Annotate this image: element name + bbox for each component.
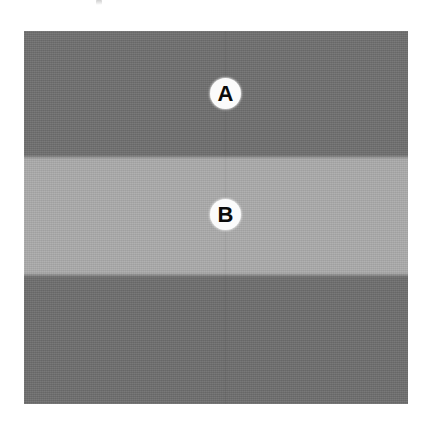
- marker-b: B: [210, 199, 241, 230]
- grayscale-band-image: A B: [24, 31, 408, 404]
- scan-artifact-mark: [96, 0, 102, 5]
- marker-b-label: B: [218, 203, 234, 225]
- figure-root: A B: [0, 0, 431, 431]
- marker-a: A: [210, 78, 241, 109]
- marker-a-label: A: [218, 82, 234, 104]
- band-dark-bottom: [24, 275, 408, 404]
